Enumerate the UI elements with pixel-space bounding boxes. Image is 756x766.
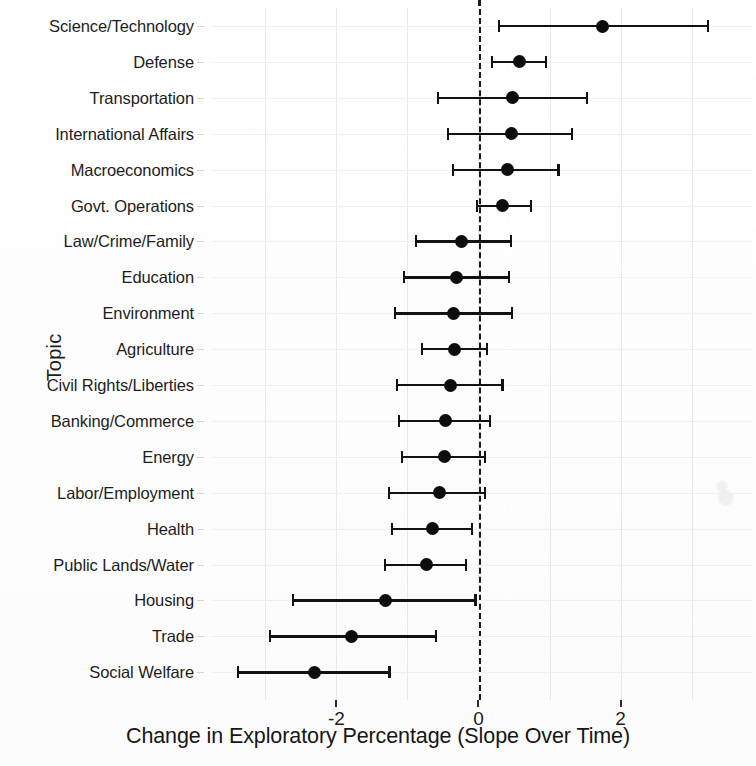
- y-axis-tick-mark: [197, 600, 204, 601]
- interval-cap-low: [401, 451, 403, 463]
- y-axis-tick-mark: [197, 98, 204, 99]
- data-row[interactable]: [212, 196, 752, 216]
- interval-cap-low: [237, 666, 239, 678]
- y-axis-tick-label: Energy: [142, 447, 194, 467]
- interval-cap-high: [557, 164, 559, 176]
- y-axis-tick-mark: [197, 529, 204, 530]
- y-axis-tick-mark: [197, 62, 204, 63]
- point-estimate-marker[interactable]: [420, 558, 433, 571]
- interval-cap-high: [435, 630, 437, 642]
- x-axis-tick-mark: [477, 700, 479, 707]
- y-axis-tick-mark: [197, 26, 204, 27]
- point-estimate-marker[interactable]: [308, 666, 321, 679]
- y-axis-tick-label: Civil Rights/Liberties: [47, 375, 194, 395]
- y-axis-tick-label: Macroeconomics: [71, 160, 194, 180]
- interval-cap-high: [510, 235, 512, 247]
- y-axis-tick-label: Social Welfare: [89, 662, 194, 682]
- point-estimate-marker[interactable]: [513, 55, 526, 68]
- y-axis-tick-mark: [197, 349, 204, 350]
- interval-cap-high: [388, 666, 390, 678]
- y-axis-tick-mark: [197, 206, 204, 207]
- forest-plot-figure: Topic Science/TechnologyDefenseTransport…: [0, 0, 756, 766]
- y-axis-tick-label: Banking/Commerce: [51, 411, 194, 431]
- interval-cap-high: [501, 379, 503, 391]
- point-estimate-marker[interactable]: [433, 486, 446, 499]
- point-estimate-marker[interactable]: [345, 630, 358, 643]
- point-estimate-marker[interactable]: [455, 235, 468, 248]
- interval-cap-high: [707, 20, 709, 32]
- y-axis-tick-mark: [197, 493, 204, 494]
- point-estimate-marker[interactable]: [448, 343, 461, 356]
- point-estimate-marker[interactable]: [438, 450, 451, 463]
- point-estimate-marker[interactable]: [501, 163, 514, 176]
- interval-cap-high: [586, 92, 588, 104]
- interval-cap-high: [484, 451, 486, 463]
- y-axis-tick-label: Trade: [152, 626, 194, 646]
- data-row[interactable]: [212, 231, 752, 251]
- data-row[interactable]: [212, 375, 752, 395]
- point-estimate-marker[interactable]: [444, 379, 457, 392]
- data-row[interactable]: [212, 124, 752, 144]
- interval-cap-high: [471, 523, 473, 535]
- data-row[interactable]: [212, 339, 752, 359]
- data-row[interactable]: [212, 303, 752, 323]
- y-axis-tick-label: Law/Crime/Family: [64, 231, 194, 251]
- point-estimate-marker[interactable]: [596, 20, 609, 33]
- data-row[interactable]: [212, 662, 752, 682]
- interval-cap-high: [530, 200, 532, 212]
- data-row[interactable]: [212, 483, 752, 503]
- interval-cap-low: [437, 92, 439, 104]
- interval-cap-low: [292, 594, 294, 606]
- data-row[interactable]: [212, 52, 752, 72]
- interval-cap-low: [396, 379, 398, 391]
- y-axis-tick-label: Environment: [102, 303, 194, 323]
- data-row[interactable]: [212, 160, 752, 180]
- y-axis-tick-label: Public Lands/Water: [53, 555, 194, 575]
- interval-cap-low: [452, 164, 454, 176]
- y-axis-tick-label: International Affairs: [55, 124, 194, 144]
- data-row[interactable]: [212, 411, 752, 431]
- data-row[interactable]: [212, 626, 752, 646]
- data-row[interactable]: [212, 267, 752, 287]
- interval-cap-high: [465, 559, 467, 571]
- y-axis-tick-mark: [197, 241, 204, 242]
- point-estimate-marker[interactable]: [426, 522, 439, 535]
- point-estimate-marker[interactable]: [439, 414, 452, 427]
- point-estimate-marker[interactable]: [447, 307, 460, 320]
- y-axis-tick-mark: [197, 170, 204, 171]
- data-row[interactable]: [212, 447, 752, 467]
- y-axis-tick-label: Labor/Employment: [57, 483, 194, 503]
- point-estimate-marker[interactable]: [506, 91, 519, 104]
- interval-cap-low: [491, 56, 493, 68]
- y-axis-tick-label: Health: [147, 519, 194, 539]
- interval-cap-high: [486, 343, 488, 355]
- interval-cap-low: [398, 415, 400, 427]
- data-row[interactable]: [212, 16, 752, 36]
- y-axis-tick-mark: [197, 277, 204, 278]
- data-row[interactable]: [212, 88, 752, 108]
- data-row[interactable]: [212, 519, 752, 539]
- interval-cap-low: [394, 307, 396, 319]
- y-axis-tick-mark: [197, 134, 204, 135]
- interval-cap-high: [545, 56, 547, 68]
- y-axis-tick-mark: [197, 313, 204, 314]
- interval-cap-low: [269, 630, 271, 642]
- interval-cap-low: [403, 271, 405, 283]
- interval-cap-high: [484, 487, 486, 499]
- data-row[interactable]: [212, 555, 752, 575]
- y-axis-tick-mark: [197, 457, 204, 458]
- point-estimate-marker[interactable]: [379, 594, 392, 607]
- data-row[interactable]: [212, 590, 752, 610]
- point-estimate-marker[interactable]: [505, 127, 518, 140]
- interval-cap-low: [388, 487, 390, 499]
- y-axis-tick-label: Defense: [133, 52, 194, 72]
- y-axis-category-labels: Science/TechnologyDefenseTransportationI…: [0, 8, 204, 700]
- point-estimate-marker[interactable]: [450, 271, 463, 284]
- y-axis-tick-mark: [197, 565, 204, 566]
- point-estimate-marker[interactable]: [496, 199, 509, 212]
- interval-cap-high: [474, 594, 476, 606]
- y-axis-tick-label: Agriculture: [116, 339, 194, 359]
- interval-cap-high: [508, 271, 510, 283]
- interval-cap-high: [511, 307, 513, 319]
- y-axis-tick-label: Education: [122, 267, 195, 287]
